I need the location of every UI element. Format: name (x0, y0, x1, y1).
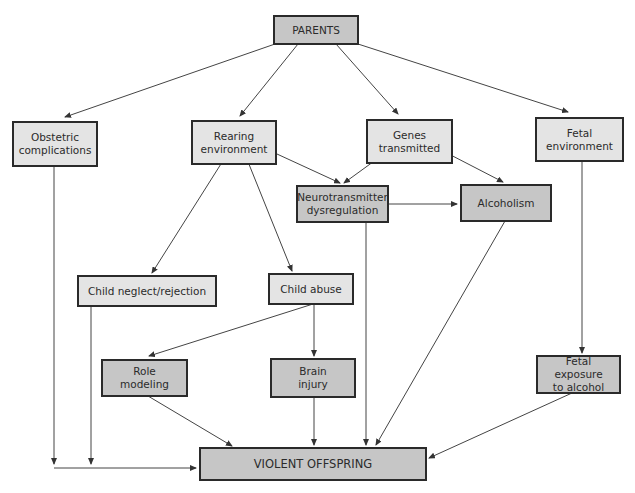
node-label: Role modeling (120, 365, 169, 391)
node-label: Child neglect/rejection (88, 285, 206, 298)
node-label: VIOLENT OFFSPRING (254, 458, 372, 471)
node-role-modeling: Role modeling (101, 359, 188, 397)
node-label: Brain injury (298, 365, 328, 391)
node-parents: PARENTS (273, 15, 359, 45)
node-label: Alcoholism (478, 197, 535, 210)
node-label: Rearing environment (201, 130, 268, 156)
edge-parents-fetal (358, 44, 568, 112)
node-label: PARENTS (292, 24, 340, 37)
node-label: Fetal exposure to alcohol (541, 355, 616, 394)
node-label: Child abuse (280, 283, 342, 296)
edge-role-violent (148, 396, 232, 446)
node-brain-injury: Brain injury (270, 358, 356, 398)
edge-exposure-violent (429, 393, 572, 458)
node-child-neglect: Child neglect/rejection (77, 275, 217, 307)
edge-layer (0, 0, 635, 493)
edge-parents-genes (336, 44, 398, 114)
node-label: Genes transmitted (379, 129, 441, 155)
edge-abuse-role (149, 304, 313, 356)
node-child-abuse: Child abuse (268, 273, 354, 305)
node-label: Neurotransmitter dysregulation (297, 191, 388, 217)
node-label: Fetal environment (546, 127, 613, 153)
node-genes-transmitted: Genes transmitted (366, 119, 453, 164)
node-neurotransmitter-dysregulation: Neurotransmitter dysregulation (296, 185, 389, 223)
node-fetal-environment: Fetal environment (535, 117, 624, 162)
edge-parents-obstetric (65, 44, 275, 117)
node-fetal-exposure: Fetal exposure to alcohol (536, 355, 621, 394)
node-violent-offspring: VIOLENT OFFSPRING (199, 447, 427, 481)
edge-alcoholism-violent (376, 221, 505, 445)
edge-parents-rearing (240, 44, 298, 116)
node-alcoholism: Alcoholism (460, 184, 552, 222)
node-obstetric-complications: Obstetric complications (12, 121, 98, 167)
node-rearing-environment: Rearing environment (191, 120, 277, 165)
node-label: Obstetric complications (19, 131, 92, 157)
